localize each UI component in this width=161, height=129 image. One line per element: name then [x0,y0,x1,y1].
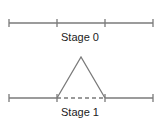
stage-1-figure [9,57,153,102]
stage-0-figure [9,19,153,27]
triangle-peak [57,57,105,98]
stage-1-label: Stage 1 [40,106,120,118]
stage-0-label: Stage 0 [40,31,120,43]
